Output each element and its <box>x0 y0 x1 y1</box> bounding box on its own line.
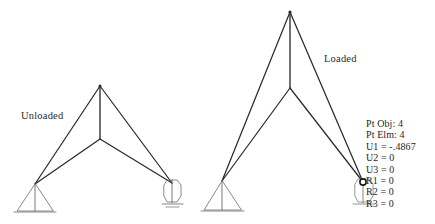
readout-point-object: Pt Obj: 4 <box>366 118 416 129</box>
readout-u3: U3 = 0 <box>366 164 416 175</box>
unloaded-label: Unloaded <box>21 110 63 121</box>
loaded-label: Loaded <box>324 53 357 64</box>
readout-u2: U2 = 0 <box>366 152 416 163</box>
readout-u1: U1 = -.4867 <box>366 141 416 152</box>
joint-result-readout: Pt Obj: 4 Pt Elm: 4 U1 = -.4867 U2 = 0 U… <box>366 118 416 209</box>
node-apex <box>288 10 291 13</box>
readout-r2: R2 = 0 <box>366 186 416 197</box>
node-apex <box>99 85 102 88</box>
readout-point-element: Pt Elm: 4 <box>366 129 416 140</box>
readout-r3: R3 = 0 <box>366 198 416 209</box>
readout-r1: R1 = 0 <box>366 175 416 186</box>
